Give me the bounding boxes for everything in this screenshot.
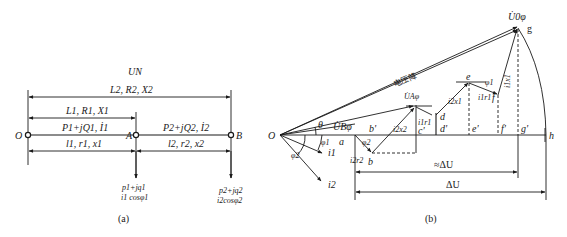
label-load-a-power: p1+jq1 xyxy=(121,183,146,192)
label-un: UN xyxy=(128,66,143,77)
node-b xyxy=(228,132,233,137)
label-approx-du: ≈ΔU xyxy=(434,159,454,170)
phasor-i2 xyxy=(280,135,321,181)
label-u0-phi: U̇0φ xyxy=(508,11,526,22)
label-e-prime: e' xyxy=(472,123,479,134)
label-du: ΔU xyxy=(446,179,460,190)
label-b: b xyxy=(368,156,373,167)
voltage-drop-diagram: UN L2, R2, X2 L1, R1, X1 P1+jQ1, İ1 P2+j… xyxy=(0,0,567,237)
label-load-oa: P1+jQ1, İ1 xyxy=(61,122,108,133)
label-span-ob: L2, R2, X2 xyxy=(109,84,153,95)
label-d: d xyxy=(440,111,446,122)
figure-a-circuit: UN L2, R2, X2 L1, R1, X1 P1+jQ1, İ1 P2+j… xyxy=(15,66,243,225)
label-span-oa: L1, R1, X1 xyxy=(65,105,109,116)
label-params-ab: l2, r2, x2 xyxy=(168,138,204,149)
label-theta: θ xyxy=(318,119,323,130)
node-o xyxy=(25,132,30,137)
arc-theta xyxy=(315,127,316,135)
label-load-ab: P2+jQ2, İ2 xyxy=(162,122,209,133)
label-ub-phi: U̇Bφ xyxy=(333,121,352,132)
caption-b: (b) xyxy=(425,213,437,225)
label-g: g xyxy=(527,23,532,34)
label-i1x1: i1x1 xyxy=(503,74,512,88)
label-i2: i2 xyxy=(328,179,336,190)
label-phi2: φ2 xyxy=(291,151,299,160)
label-b-prime: b' xyxy=(369,123,377,134)
phasor-c-d xyxy=(416,107,432,115)
label-h: h xyxy=(549,130,554,141)
label-i2x2: i2x2 xyxy=(393,125,407,134)
label-node-o: O xyxy=(15,130,22,141)
label-load-a-current: i1 cosφ1 xyxy=(121,193,148,202)
label-node-a: A xyxy=(125,130,133,141)
label-voltage-drop: 电压降 xyxy=(392,70,418,89)
label-a: a xyxy=(339,136,344,147)
label-load-b-power: p2+jq2 xyxy=(218,186,243,195)
label-f-prime: f' xyxy=(501,123,507,134)
caption-a: (a) xyxy=(118,213,129,225)
node-a xyxy=(133,132,138,137)
arc-g-h xyxy=(518,28,546,135)
label-i1: i1 xyxy=(328,147,336,158)
label-o: O xyxy=(268,130,275,141)
label-d-prime: d' xyxy=(440,123,448,134)
label-i1r1-small: i1r1 xyxy=(418,118,431,127)
label-phi1-e: φ1 xyxy=(485,78,493,87)
label-phi2-b: φ2 xyxy=(362,138,370,147)
label-g-prime: g' xyxy=(521,123,529,134)
label-e: e xyxy=(466,71,471,82)
label-i2x1: i2x1 xyxy=(448,97,462,106)
label-params-oa: l1, r1, x1 xyxy=(66,138,102,149)
label-i1r1: i1r1 xyxy=(478,93,491,102)
label-i2r2: i2r2 xyxy=(350,156,363,165)
label-ua-phi: U̇Aφ xyxy=(404,92,420,101)
label-load-b-current: i2cosφ2 xyxy=(217,196,242,205)
label-phi1: φ1 xyxy=(321,138,329,147)
figure-b-phasor: θ U̇Bφ i1 i2 φ1 φ2 O a φ2 i2r2 b b' i2x2… xyxy=(268,11,554,225)
label-node-b: B xyxy=(236,130,242,141)
